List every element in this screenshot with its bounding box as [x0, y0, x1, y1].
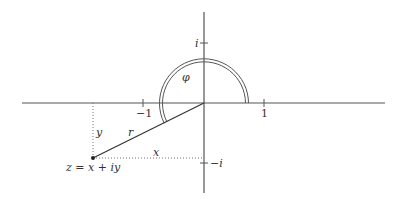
label-phi: φ: [182, 71, 190, 84]
point-z: [91, 156, 95, 160]
diagram-canvas: i −i −1 1 φ r x y z = x + iy: [0, 0, 403, 199]
label-r: r: [128, 126, 134, 139]
label-neg-one: −1: [136, 107, 152, 120]
label-i: i: [195, 37, 199, 50]
label-x: x: [153, 146, 160, 159]
label-one: 1: [261, 107, 268, 120]
label-y: y: [95, 126, 103, 139]
label-point-z: z = x + iy: [65, 161, 121, 174]
complex-plane-diagram: i −i −1 1 φ r x y z = x + iy: [0, 0, 403, 199]
label-neg-i: −i: [210, 157, 223, 170]
